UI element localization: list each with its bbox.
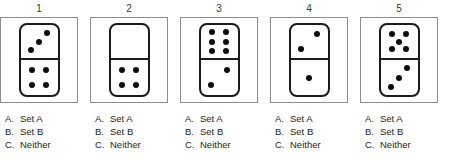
answer-option-label: Set A [380, 112, 438, 125]
answer-option-key: B. [275, 125, 290, 138]
answer-options: A.Set AB.Set BC.Neither [180, 112, 258, 151]
answer-option-b[interactable]: B.Set B [275, 125, 348, 138]
domino-pip [29, 82, 35, 88]
answer-option-label: Set A [290, 112, 348, 125]
domino-cell [0, 17, 78, 103]
answer-option-key: A. [365, 112, 380, 125]
domino-half-bottom [381, 60, 418, 95]
answer-option-c[interactable]: C.Neither [185, 138, 258, 151]
answer-option-label: Set B [20, 125, 78, 138]
domino-pip [133, 67, 139, 73]
question-column-5: 5A.Set AB.Set BC.Neither [360, 0, 438, 151]
domino-pip [36, 39, 42, 45]
answer-option-c[interactable]: C.Neither [5, 138, 78, 151]
domino-half-top [201, 25, 238, 60]
answer-option-b[interactable]: B.Set B [185, 125, 258, 138]
question-column-2: 2A.Set AB.Set BC.Neither [90, 0, 168, 151]
answer-option-key: B. [5, 125, 20, 138]
question-column-4: 4A.Set AB.Set BC.Neither [270, 0, 348, 151]
domino-half-bottom [291, 60, 328, 95]
answer-option-key: B. [365, 125, 380, 138]
domino-pip [209, 29, 215, 35]
domino-cell [360, 17, 438, 103]
domino-pip [119, 67, 125, 73]
answer-option-a[interactable]: A.Set A [365, 112, 438, 125]
domino-pip [208, 82, 214, 88]
domino-pip [389, 31, 395, 37]
answer-option-c[interactable]: C.Neither [365, 138, 438, 151]
answer-option-key: A. [5, 112, 20, 125]
answer-option-key: C. [5, 138, 20, 151]
answer-option-key: A. [185, 112, 200, 125]
domino-half-bottom [21, 60, 58, 95]
domino-tile [199, 23, 240, 97]
domino-half-bottom [201, 60, 238, 95]
answer-option-label: Neither [200, 138, 258, 151]
question-column-3: 3A.Set AB.Set BC.Neither [180, 0, 258, 151]
answer-option-label: Neither [380, 138, 438, 151]
domino-pip [396, 75, 402, 81]
domino-pip [306, 75, 312, 81]
question-number: 2 [90, 0, 168, 17]
answer-option-b[interactable]: B.Set B [365, 125, 438, 138]
domino-tile [109, 23, 150, 97]
answer-option-key: C. [275, 138, 290, 151]
domino-pip [223, 39, 229, 45]
answer-option-label: Set B [200, 125, 258, 138]
domino-pip [388, 84, 394, 90]
answer-option-b[interactable]: B.Set B [5, 125, 78, 138]
answer-option-c[interactable]: C.Neither [95, 138, 168, 151]
answer-option-label: Set A [20, 112, 78, 125]
domino-half-top [21, 25, 58, 60]
domino-pip [396, 39, 402, 45]
domino-tile [289, 23, 330, 97]
domino-cell [180, 17, 258, 103]
domino-pip [223, 48, 229, 54]
domino-half-top [381, 25, 418, 60]
domino-half-bottom [111, 60, 148, 95]
answer-options: A.Set AB.Set BC.Neither [270, 112, 348, 151]
domino-pip [403, 46, 409, 52]
answer-option-label: Set B [110, 125, 168, 138]
domino-pip [223, 29, 229, 35]
domino-pip [43, 67, 49, 73]
domino-tile [379, 23, 420, 97]
answer-option-a[interactable]: A.Set A [5, 112, 78, 125]
answer-option-label: Set B [290, 125, 348, 138]
domino-pip [119, 82, 125, 88]
domino-pip [209, 39, 215, 45]
answer-option-label: Neither [290, 138, 348, 151]
answer-option-label: Neither [20, 138, 78, 151]
domino-pip [224, 67, 230, 73]
answer-option-a[interactable]: A.Set A [275, 112, 348, 125]
domino-pip [43, 82, 49, 88]
domino-pip [29, 67, 35, 73]
domino-half-top [111, 25, 148, 60]
answer-option-key: C. [365, 138, 380, 151]
answer-option-b[interactable]: B.Set B [95, 125, 168, 138]
domino-half-top [291, 25, 328, 60]
question-column-1: 1A.Set AB.Set BC.Neither [0, 0, 78, 151]
answer-option-c[interactable]: C.Neither [275, 138, 348, 151]
question-number: 3 [180, 0, 258, 17]
domino-pip [298, 46, 304, 52]
question-number: 5 [360, 0, 438, 17]
answer-option-label: Set A [110, 112, 168, 125]
domino-pip [404, 65, 410, 71]
domino-tile [19, 23, 60, 97]
domino-pip [389, 46, 395, 52]
domino-pip [314, 31, 320, 37]
answer-option-key: B. [185, 125, 200, 138]
question-number: 4 [270, 0, 348, 17]
answer-option-key: A. [275, 112, 290, 125]
domino-pip [209, 48, 215, 54]
domino-cell [90, 17, 168, 103]
answer-option-a[interactable]: A.Set A [185, 112, 258, 125]
answer-option-label: Set B [380, 125, 438, 138]
answer-option-a[interactable]: A.Set A [95, 112, 168, 125]
answer-option-key: C. [95, 138, 110, 151]
answer-options: A.Set AB.Set BC.Neither [360, 112, 438, 151]
answer-options: A.Set AB.Set BC.Neither [90, 112, 168, 151]
domino-cell [270, 17, 348, 103]
domino-pip [133, 82, 139, 88]
